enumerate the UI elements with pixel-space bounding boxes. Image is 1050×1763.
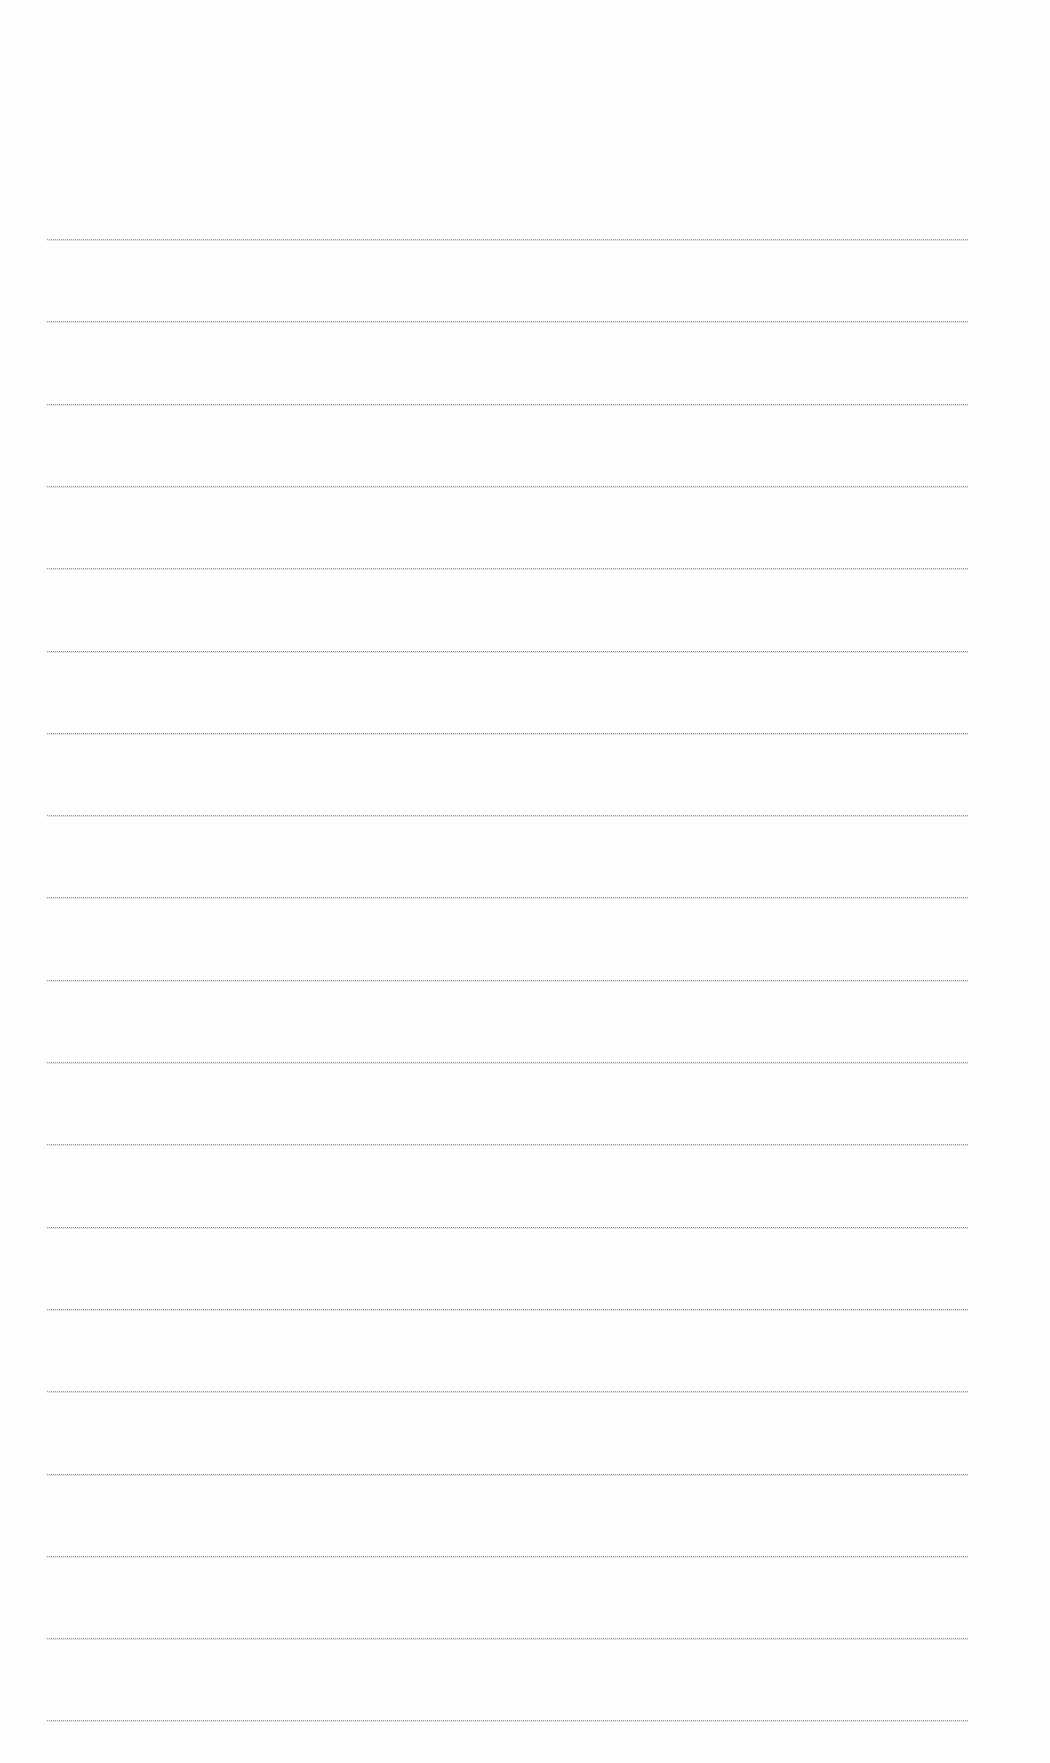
ruled-line [47,486,968,487]
ruled-line [47,897,968,898]
lined-paper-page [0,0,1050,1763]
ruled-line [47,1556,968,1557]
ruled-line [47,1638,968,1639]
ruled-line [47,239,968,240]
ruled-line [47,1062,968,1063]
ruled-line [47,1144,968,1145]
ruled-line [47,1391,968,1392]
ruled-line [47,1720,968,1721]
ruled-line [47,733,968,734]
ruled-line [47,980,968,981]
ruled-line [47,651,968,652]
ruled-line [47,1309,968,1310]
ruled-line [47,1227,968,1228]
ruled-line [47,568,968,569]
ruled-line [47,321,968,322]
ruled-line [47,1474,968,1475]
ruled-line [47,815,968,816]
ruled-line [47,404,968,405]
